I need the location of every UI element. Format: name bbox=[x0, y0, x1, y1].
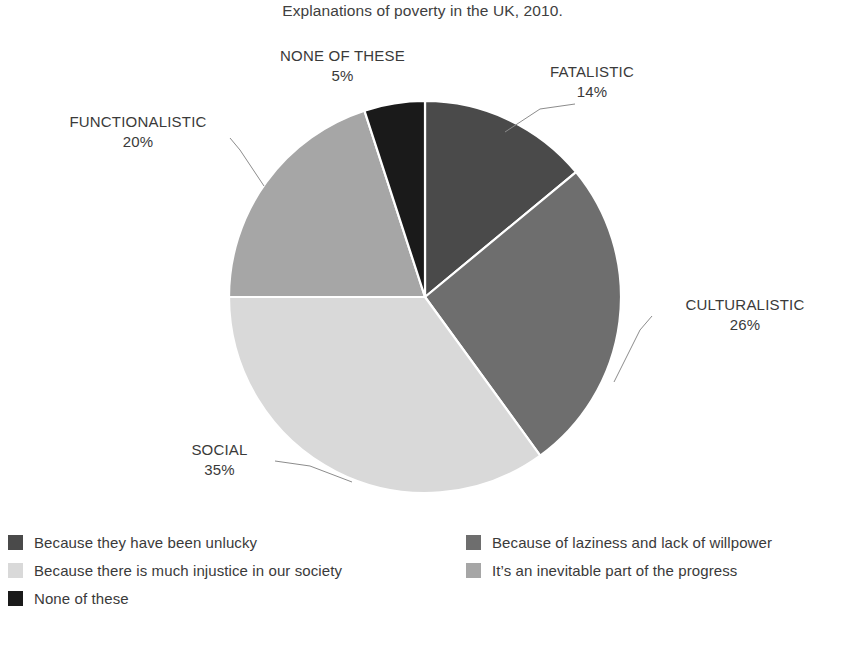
legend-item[interactable]: Because they have been unlucky bbox=[8, 528, 448, 556]
legend-item[interactable]: Because there is much injustice in our s… bbox=[8, 556, 448, 584]
slice-label-social-value: 35% bbox=[152, 460, 287, 480]
slice-label-none-of-these: NONE OF THESE 5% bbox=[255, 46, 430, 86]
legend-label: It’s an inevitable part of the progress bbox=[492, 562, 737, 579]
slice-label-functionalistic-value: 20% bbox=[38, 132, 238, 152]
slice-label-culturalistic-category: CULTURALISTIC bbox=[655, 295, 835, 315]
slice-label-functionalistic-category: FUNCTIONALISTIC bbox=[38, 112, 238, 132]
slice-label-social-category: SOCIAL bbox=[152, 440, 287, 460]
slice-label-fatalistic: FATALISTIC 14% bbox=[513, 62, 671, 102]
slice-label-none-of-these-value: 5% bbox=[255, 66, 430, 86]
legend-item[interactable]: None of these bbox=[8, 584, 448, 612]
slice-label-fatalistic-category: FATALISTIC bbox=[513, 62, 671, 82]
legend-label: Because there is much injustice in our s… bbox=[34, 562, 342, 579]
legend-swatch bbox=[466, 563, 481, 578]
legend-swatch bbox=[466, 535, 481, 550]
legend-swatch bbox=[8, 535, 23, 550]
legend-item[interactable]: Because of laziness and lack of willpowe… bbox=[466, 528, 845, 556]
slice-label-culturalistic: CULTURALISTIC 26% bbox=[655, 295, 835, 335]
legend-label: Because of laziness and lack of willpowe… bbox=[492, 534, 772, 551]
slice-label-social: SOCIAL 35% bbox=[152, 440, 287, 480]
legend-column-right: Because of laziness and lack of willpowe… bbox=[466, 528, 845, 584]
legend-column-left: Because they have been unluckyBecause th… bbox=[8, 528, 448, 612]
legend-swatch bbox=[8, 563, 23, 578]
slice-label-culturalistic-value: 26% bbox=[655, 315, 835, 335]
slice-label-functionalistic: FUNCTIONALISTIC 20% bbox=[38, 112, 238, 152]
slice-label-fatalistic-value: 14% bbox=[513, 82, 671, 102]
legend-label: None of these bbox=[34, 590, 129, 607]
legend-label: Because they have been unlucky bbox=[34, 534, 257, 551]
pie-slices bbox=[229, 101, 621, 493]
pie-chart: Explanations of poverty in the UK, 2010.… bbox=[0, 0, 845, 646]
legend-item[interactable]: It’s an inevitable part of the progress bbox=[466, 556, 845, 584]
slice-label-none-of-these-category: NONE OF THESE bbox=[255, 46, 430, 66]
legend-swatch bbox=[8, 591, 23, 606]
